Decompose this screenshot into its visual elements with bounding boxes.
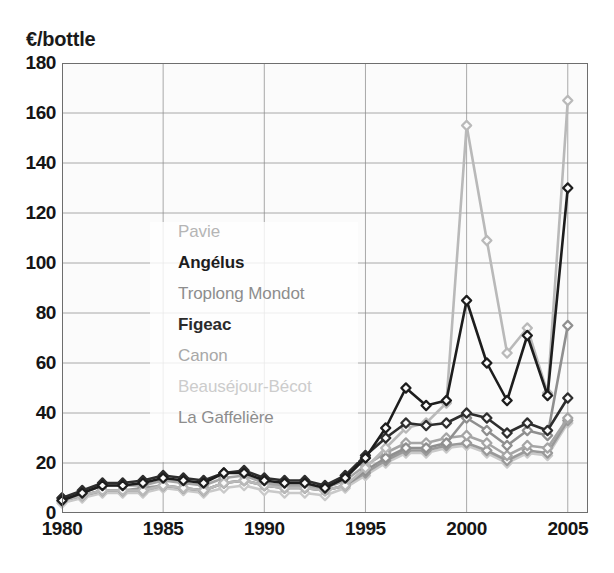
- y-tick-label: 80: [0, 302, 56, 324]
- x-tick-label: 1980: [42, 518, 83, 540]
- y-tick-label: 20: [0, 452, 56, 474]
- y-tick-label: 40: [0, 402, 56, 424]
- y-tick-label: 160: [0, 102, 56, 124]
- y-tick-label: 100: [0, 252, 56, 274]
- x-tick-label: 1995: [345, 518, 386, 540]
- y-tick-label: 180: [0, 52, 56, 74]
- wine-price-line-chart: €/bottle 020406080100120140160180 198019…: [0, 0, 614, 573]
- x-tick-label: 2005: [547, 518, 588, 540]
- chart-canvas: [0, 0, 614, 573]
- y-tick-label: 60: [0, 352, 56, 374]
- x-tick-label: 1990: [244, 518, 285, 540]
- y-tick-label: 140: [0, 152, 56, 174]
- x-tick-label: 2000: [446, 518, 487, 540]
- x-tick-label: 1985: [143, 518, 184, 540]
- y-tick-label: 120: [0, 202, 56, 224]
